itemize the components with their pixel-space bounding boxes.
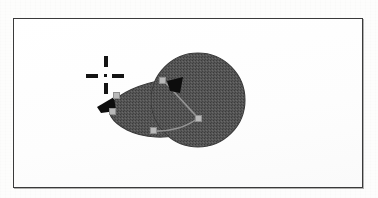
scanned-page <box>0 0 378 198</box>
crosshair-bar-right <box>112 74 124 78</box>
filled-circle <box>151 53 245 147</box>
crosshair-bar-left <box>86 74 98 78</box>
crosshair-bar-top <box>104 56 108 67</box>
node-left-lower[interactable] <box>109 108 116 115</box>
node-bottom[interactable] <box>150 127 157 134</box>
crosshair-marker[interactable] <box>86 56 126 96</box>
node-center-right[interactable] <box>195 115 202 122</box>
crosshair-center-dot <box>104 74 107 77</box>
vector-artwork <box>14 19 362 187</box>
node-upper-right[interactable] <box>159 77 166 84</box>
arrow-direction-right <box>166 76 186 96</box>
drawing-canvas[interactable] <box>13 18 363 188</box>
crosshair-bar-bottom <box>104 83 108 94</box>
